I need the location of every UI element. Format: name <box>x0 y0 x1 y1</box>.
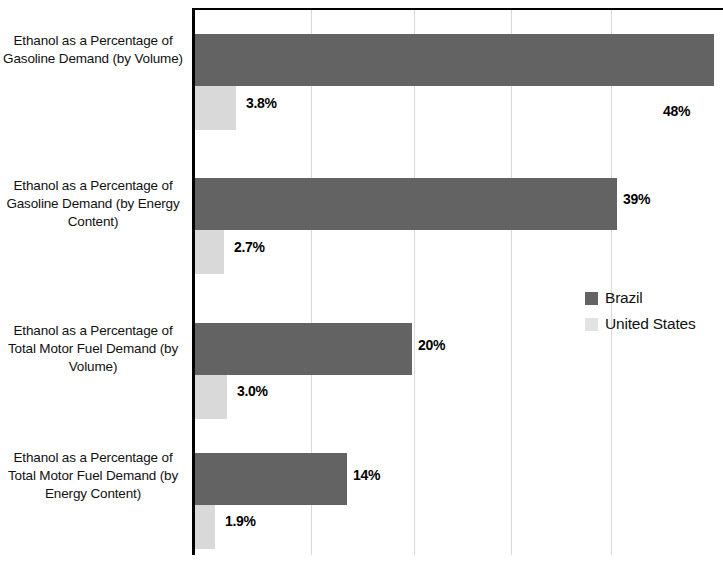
bar-value-brazil-1: 48% <box>663 103 690 119</box>
legend-label-united-states: United States <box>605 315 695 333</box>
bar-value-brazil-2: 39% <box>623 191 650 207</box>
bar-value-united-states-4: 1.9% <box>225 513 256 529</box>
legend-label-brazil: Brazil <box>605 289 643 307</box>
legend-item-brazil: Brazil <box>585 285 721 311</box>
bar-value-united-states-1: 3.8% <box>246 95 277 111</box>
legend-swatch-brazil-icon <box>585 292 598 305</box>
category-label-3: Ethanol as a Percentage of Total Motor F… <box>0 322 186 376</box>
bar-united-states-1 <box>195 86 236 130</box>
bar-value-brazil-4: 14% <box>353 467 380 483</box>
plot-area: 3.8% 48% 39% 2.7% 20% 3.0% 14% 1.9% <box>192 8 723 555</box>
bar-united-states-2 <box>195 230 224 274</box>
legend-swatch-united-states-icon <box>585 318 598 331</box>
category-label-2: Ethanol as a Percentage of Gasoline Dema… <box>0 177 186 231</box>
gridline-30 <box>511 10 512 555</box>
category-label-4: Ethanol as a Percentage of Total Motor F… <box>0 449 186 503</box>
bar-brazil-2 <box>195 178 617 230</box>
bar-value-united-states-3: 3.0% <box>237 383 268 399</box>
bar-value-united-states-2: 2.7% <box>234 239 265 255</box>
bar-chart: Ethanol as a Percentage of Gasoline Dema… <box>0 0 723 567</box>
category-label-1: Ethanol as a Percentage of Gasoline Dema… <box>0 32 186 68</box>
bar-united-states-4 <box>195 505 215 549</box>
gridline-20 <box>414 10 415 555</box>
bar-value-brazil-3: 20% <box>418 337 445 353</box>
gridline-40 <box>611 10 612 555</box>
legend: Brazil United States <box>585 285 721 337</box>
category-axis: Ethanol as a Percentage of Gasoline Dema… <box>0 0 192 567</box>
bar-brazil-1 <box>195 34 714 86</box>
bar-brazil-4 <box>195 453 347 505</box>
bar-united-states-3 <box>195 375 227 419</box>
legend-item-united-states: United States <box>585 311 721 337</box>
bar-brazil-3 <box>195 323 412 375</box>
